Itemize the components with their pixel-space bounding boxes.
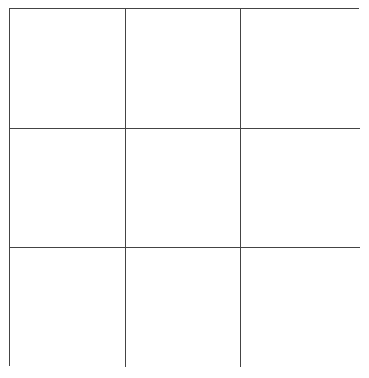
cell-1-0[interactable] <box>10 129 126 248</box>
tic-tac-toe-board <box>9 8 359 366</box>
cell-2-1[interactable] <box>126 248 241 367</box>
cell-0-2[interactable] <box>241 9 360 129</box>
cell-2-2[interactable] <box>241 248 360 367</box>
cell-2-0[interactable] <box>10 248 126 367</box>
cell-1-1[interactable] <box>126 129 241 248</box>
cell-1-2[interactable] <box>241 129 360 248</box>
cell-0-0[interactable] <box>10 9 126 129</box>
cell-0-1[interactable] <box>126 9 241 129</box>
